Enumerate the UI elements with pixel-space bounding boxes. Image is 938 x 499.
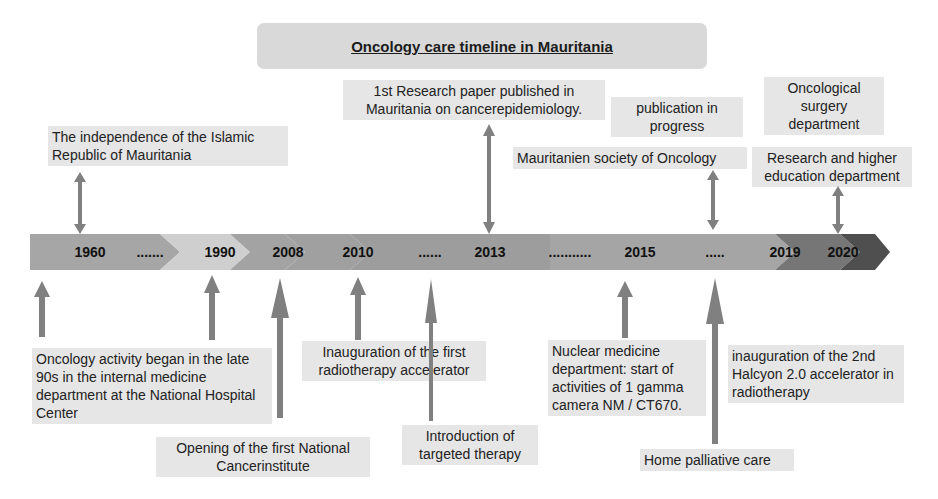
- double-arrow-icon: [72, 172, 88, 234]
- timeline-gap: .......: [120, 234, 180, 270]
- event-label-halcyon-accelerator: inauguration of the 2nd Halcyon 2.0 acce…: [728, 345, 904, 403]
- up-arrow-icon: [422, 279, 440, 421]
- timeline-gap: ......: [400, 234, 460, 270]
- timeline-gap: .....: [690, 234, 740, 270]
- up-arrow-icon: [270, 278, 290, 418]
- up-arrow-icon: [349, 277, 367, 340]
- timeline-year-2015: 2015: [610, 234, 670, 270]
- double-arrow-icon: [705, 170, 721, 230]
- event-label-nuclear-medicine: Nuclear medicine department: start of ac…: [548, 340, 706, 416]
- title-banner: Oncology care timeline in Mauritania: [257, 23, 707, 69]
- event-label-oncology-activity-began: Oncology activity began in the late 90s …: [32, 348, 272, 424]
- timeline-year-2013: 2013: [460, 234, 520, 270]
- event-label-targeted-therapy: Introduction of targeted therapy: [402, 425, 538, 465]
- timeline-gap: ...........: [540, 234, 600, 270]
- timeline-year-2008: 2008: [258, 234, 318, 270]
- timeline-year-2010: 2010: [328, 234, 388, 270]
- up-arrow-icon: [616, 281, 634, 338]
- page-title: Oncology care timeline in Mauritania: [351, 38, 613, 55]
- event-label-home-palliative-care: Home palliative care: [640, 449, 794, 471]
- event-label-first-research-paper: 1st Research paper published in Mauritan…: [343, 80, 605, 120]
- event-label-research-higher-education: Research and higher education department: [752, 147, 912, 187]
- up-arrow-icon: [33, 281, 51, 337]
- timeline-year-2019: 2019: [760, 234, 810, 270]
- up-arrow-icon: [203, 275, 221, 340]
- double-arrow-icon: [481, 124, 497, 234]
- timeline-year-1990: 1990: [190, 234, 250, 270]
- event-label-mauritanien-society-oncology: Mauritanien society of Oncology: [513, 147, 747, 169]
- timeline-year-2020: 2020: [818, 234, 868, 270]
- event-label-independence: The independence of the Islamic Republic…: [48, 126, 288, 166]
- double-arrow-icon: [830, 186, 846, 234]
- event-label-oncological-surgery: Oncological surgery department: [764, 77, 884, 135]
- timeline-year-1960: 1960: [55, 234, 125, 270]
- event-label-national-cancer-institute: Opening of the first National Cancerinst…: [156, 437, 370, 477]
- up-arrow-icon: [705, 278, 725, 444]
- event-label-first-radiotherapy-accelerator: Inauguration of the first radiotherapy a…: [302, 341, 486, 381]
- event-label-publication-in-progress: publication in progress: [611, 97, 743, 137]
